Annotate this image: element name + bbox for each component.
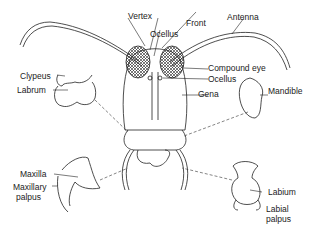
label-vertex: Vertex bbox=[128, 12, 152, 21]
label-mandible: Mandible bbox=[268, 87, 303, 96]
label-labial-palpus-1: Labial bbox=[266, 205, 289, 214]
labrum-shape bbox=[55, 75, 96, 107]
label-labial-palpus-2: palpus bbox=[266, 215, 291, 224]
label-compound-eye: Compound eye bbox=[208, 64, 266, 73]
label-ocellus-top: Ocellus bbox=[150, 30, 178, 39]
label-clypeus: Clypeus bbox=[20, 72, 51, 81]
maxilla-shape bbox=[57, 157, 100, 212]
label-maxillary-palpus-1: Maxillary bbox=[13, 183, 47, 192]
label-labium: Labium bbox=[268, 188, 296, 197]
label-maxillary-palpus-2: palpus bbox=[16, 193, 41, 202]
label-labrum: Labrum bbox=[17, 86, 46, 95]
labium-shape bbox=[232, 162, 260, 205]
label-gena: Gena bbox=[198, 90, 219, 99]
label-front: Front bbox=[186, 19, 206, 28]
label-maxilla: Maxilla bbox=[20, 170, 46, 179]
label-antenna: Antenna bbox=[227, 13, 259, 22]
antenna-left bbox=[20, 22, 142, 66]
mandible-shape bbox=[239, 78, 262, 118]
label-ocellus-side: Ocellus bbox=[208, 75, 236, 84]
insect-head-diagram: Vertex Front Antenna Ocellus Compound ey… bbox=[0, 0, 316, 230]
